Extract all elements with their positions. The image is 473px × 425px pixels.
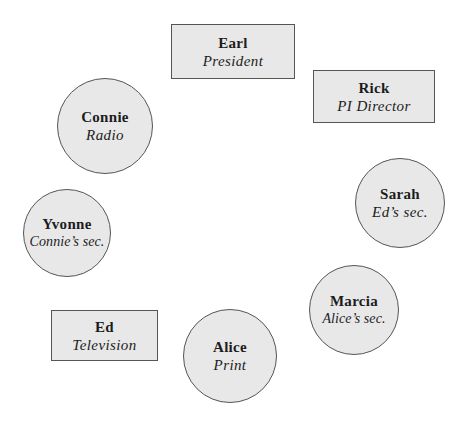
node-name: Marcia [330, 292, 378, 310]
node-name: Alice [213, 338, 247, 356]
node-name: Earl [218, 34, 248, 52]
node-marcia: Marcia Alice’s sec. [309, 265, 399, 355]
node-role: Alice’s sec. [322, 310, 385, 328]
node-earl: Earl President [171, 24, 295, 79]
node-name: Ed [95, 318, 114, 336]
node-role: Television [72, 336, 136, 354]
node-connie: Connie Radio [57, 78, 153, 174]
node-role: Radio [86, 126, 124, 144]
node-role: Ed’s sec. [372, 203, 428, 221]
node-rick: Rick PI Director [313, 70, 435, 123]
node-yvonne: Yvonne Connie’s sec. [23, 189, 111, 277]
node-name: Connie [81, 108, 129, 126]
node-ed: Ed Television [51, 310, 158, 361]
node-role: President [203, 52, 264, 70]
node-role: PI Director [337, 97, 410, 115]
node-sarah: Sarah Ed’s sec. [355, 158, 445, 248]
node-name: Rick [358, 79, 389, 97]
node-role: Connie’s sec. [30, 233, 105, 251]
node-name: Sarah [380, 185, 420, 203]
node-alice: Alice Print [183, 309, 277, 403]
node-name: Yvonne [42, 215, 91, 233]
node-role: Print [214, 356, 247, 374]
